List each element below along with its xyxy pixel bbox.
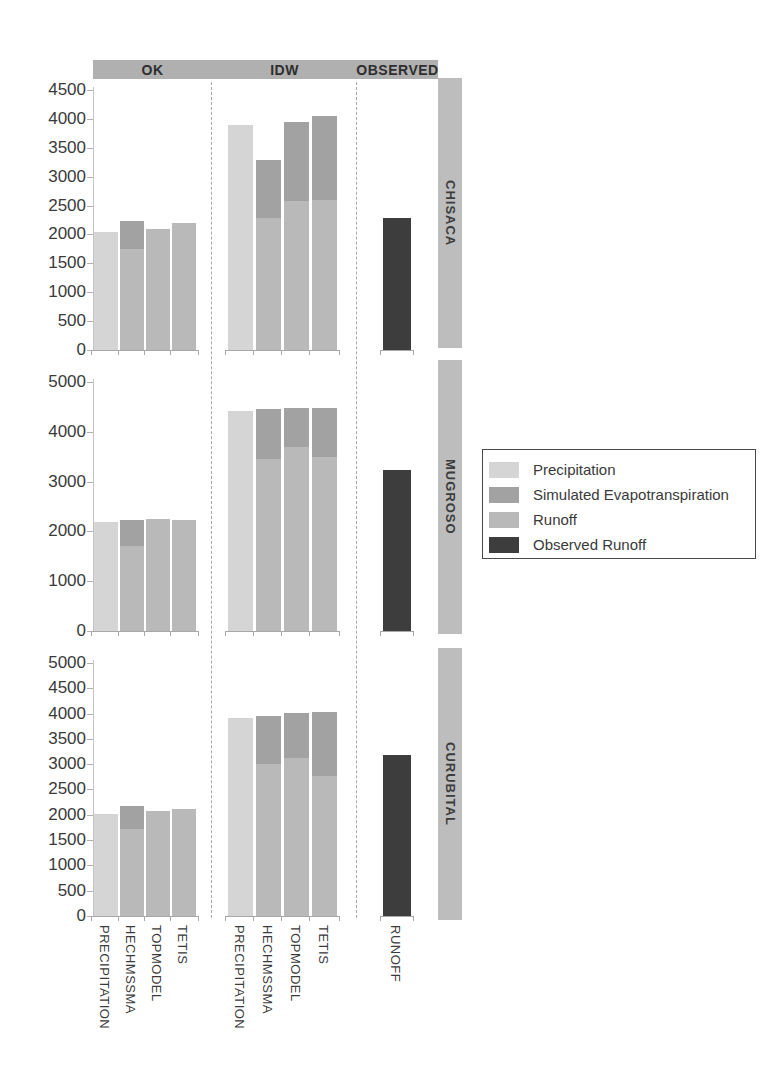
legend-label: Simulated Evapotranspiration — [533, 486, 729, 503]
y-tick-label: 0 — [24, 906, 86, 926]
bar-segment-precipitation — [94, 232, 118, 350]
bar-segment-runoff — [312, 776, 337, 916]
x-tick-mark — [380, 632, 381, 636]
x-axis-label: PRECIPITATION — [97, 925, 112, 1043]
panel-strip-chisaca-label: CHISACA — [443, 180, 458, 246]
x-tick-mark — [380, 917, 381, 921]
bar-segment-runoff — [172, 520, 196, 631]
y-tick-label: 3500 — [24, 138, 86, 158]
x-tick-mark — [170, 917, 171, 921]
bar-segment-simulated-evapotranspiration — [120, 221, 144, 249]
dashed-separator-ok-idw — [211, 82, 212, 918]
y-tick-label: 3500 — [24, 729, 86, 749]
y-tick-mark — [87, 206, 93, 207]
column-header-observed: OBSERVED — [357, 60, 438, 79]
legend-swatch — [489, 462, 519, 478]
legend-item-runoff: Runoff — [489, 507, 755, 532]
bar-segment-runoff — [256, 218, 281, 350]
y-tick-mark — [87, 688, 93, 689]
y-tick-label: 1000 — [24, 855, 86, 875]
legend-item-simulated-evapotranspiration: Simulated Evapotranspiration — [489, 482, 755, 507]
x-tick-mark — [198, 917, 199, 921]
x-baseline — [380, 631, 414, 632]
y-tick-mark — [87, 482, 93, 483]
x-tick-mark — [253, 351, 254, 355]
x-tick-mark — [281, 917, 282, 921]
y-tick-mark — [87, 148, 93, 149]
y-tick-label: 4500 — [24, 678, 86, 698]
bar-segment-precipitation — [94, 814, 118, 916]
y-tick-mark — [87, 321, 93, 322]
y-tick-label: 2000 — [24, 805, 86, 825]
y-tick-label: 5000 — [24, 653, 86, 673]
column-header-ok: OK — [93, 60, 212, 79]
y-tick-mark — [87, 764, 93, 765]
x-tick-mark — [281, 632, 282, 636]
x-tick-mark — [309, 351, 310, 355]
bar-segment-simulated-evapotranspiration — [312, 116, 337, 200]
x-baseline — [225, 916, 340, 917]
x-tick-mark — [198, 632, 199, 636]
column-header-idw-label: IDW — [270, 62, 299, 78]
bar-segment-simulated-evapotranspiration — [312, 408, 337, 457]
bar-segment-precipitation — [228, 718, 253, 916]
bar-segment-observed-runoff — [383, 755, 411, 916]
x-tick-mark — [91, 632, 92, 636]
y-tick-label: 4000 — [24, 109, 86, 129]
x-tick-mark — [339, 917, 340, 921]
bar-segment-runoff — [172, 809, 196, 916]
x-tick-mark — [225, 917, 226, 921]
x-tick-mark — [309, 917, 310, 921]
y-tick-mark — [87, 714, 93, 715]
bar-segment-runoff — [120, 829, 144, 916]
column-header-observed-label: OBSERVED — [356, 62, 438, 78]
bar-segment-simulated-evapotranspiration — [312, 712, 337, 776]
bar-segment-observed-runoff — [383, 470, 411, 631]
x-baseline — [380, 916, 414, 917]
bar-segment-runoff — [146, 811, 170, 916]
bar-segment-runoff — [256, 764, 281, 916]
x-tick-mark — [413, 632, 414, 636]
y-tick-mark — [87, 234, 93, 235]
bar-segment-simulated-evapotranspiration — [120, 520, 144, 546]
stacked-bar-chart: OK IDW OBSERVED CHISACA MUGROSO CURUBITA… — [0, 0, 763, 1090]
bar-segment-runoff — [172, 223, 196, 350]
bar-segment-simulated-evapotranspiration — [284, 713, 309, 758]
x-tick-mark — [118, 351, 119, 355]
y-tick-label: 4000 — [24, 422, 86, 442]
legend-swatch — [489, 537, 519, 553]
x-tick-mark — [380, 351, 381, 355]
x-axis-label: TETIS — [316, 925, 331, 1043]
y-tick-mark — [87, 663, 93, 664]
bar-segment-simulated-evapotranspiration — [284, 408, 309, 447]
y-tick-mark — [87, 531, 93, 532]
x-tick-mark — [91, 917, 92, 921]
bar-segment-precipitation — [94, 522, 118, 631]
bar-segment-runoff — [120, 546, 144, 631]
x-tick-mark — [144, 632, 145, 636]
x-axis-label: RUNOFF — [388, 925, 403, 1043]
x-tick-mark — [339, 632, 340, 636]
y-tick-label: 1500 — [24, 830, 86, 850]
x-baseline — [225, 350, 340, 351]
bar-segment-precipitation — [228, 125, 253, 350]
y-tick-mark — [87, 891, 93, 892]
bar-segment-runoff — [312, 200, 337, 350]
bar-segment-precipitation — [228, 411, 253, 631]
y-tick-label: 3000 — [24, 472, 86, 492]
y-tick-mark — [87, 865, 93, 866]
y-tick-mark — [87, 292, 93, 293]
y-tick-mark — [87, 90, 93, 91]
bar-segment-simulated-evapotranspiration — [284, 122, 309, 201]
x-tick-mark — [309, 632, 310, 636]
y-tick-mark — [87, 581, 93, 582]
bar-segment-observed-runoff — [383, 218, 411, 350]
legend-label: Runoff — [533, 511, 577, 528]
y-tick-label: 3000 — [24, 167, 86, 187]
x-tick-mark — [91, 351, 92, 355]
y-tick-label: 0 — [24, 621, 86, 641]
legend-swatch — [489, 512, 519, 528]
panel-strip-curubital: CURUBITAL — [438, 648, 462, 920]
bar-segment-runoff — [146, 519, 170, 631]
legend-item-observed-runoff: Observed Runoff — [489, 532, 755, 557]
